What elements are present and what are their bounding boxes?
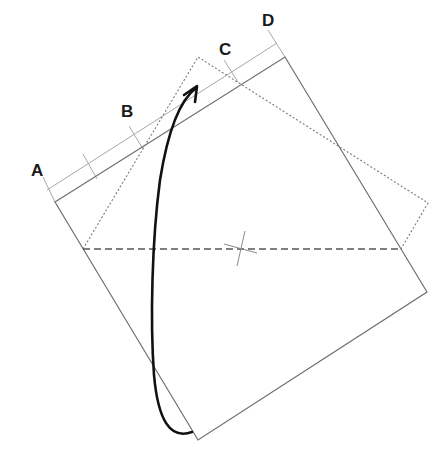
fold-arrow-icon <box>152 88 196 434</box>
measurement-guides <box>43 30 285 202</box>
diagram-canvas: A B C D <box>0 0 434 455</box>
folding-diagram: A B C D <box>0 0 434 455</box>
label-b: B <box>121 102 133 121</box>
label-d: D <box>262 11 274 30</box>
label-c: C <box>219 40 231 59</box>
folded-position-dotted <box>83 57 428 249</box>
label-a: A <box>31 161 43 180</box>
